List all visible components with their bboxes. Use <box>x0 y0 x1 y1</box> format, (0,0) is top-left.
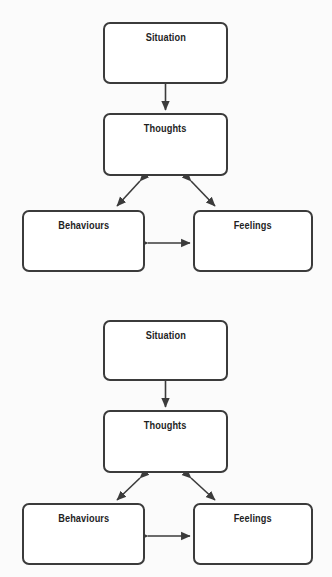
arrow-thoughts-feelings <box>191 478 215 500</box>
arrow-thoughts-feelings <box>191 181 215 206</box>
node-situation[interactable]: Situation <box>103 22 228 84</box>
diagram-page: Situation Thoughts Behaviours Feelings <box>0 0 332 577</box>
arrow-thoughts-behaviours <box>117 478 140 500</box>
node-situation-label: Situation <box>145 33 185 43</box>
node-thoughts-label: Thoughts <box>144 421 187 431</box>
node-situation-label: Situation <box>145 331 185 341</box>
node-feelings[interactable]: Feelings <box>193 503 313 565</box>
node-feelings[interactable]: Feelings <box>193 210 313 272</box>
cbt-diagram-bottom: Situation Thoughts Behaviours Feelings <box>0 290 332 577</box>
node-situation[interactable]: Situation <box>103 320 228 381</box>
node-behaviours[interactable]: Behaviours <box>22 503 145 565</box>
node-thoughts[interactable]: Thoughts <box>103 410 228 473</box>
node-behaviours-label: Behaviours <box>58 514 109 524</box>
arrow-thoughts-behaviours <box>117 181 140 206</box>
node-feelings-label: Feelings <box>234 514 272 524</box>
node-behaviours[interactable]: Behaviours <box>22 210 145 272</box>
node-thoughts-label: Thoughts <box>144 124 187 134</box>
cbt-diagram-top: Situation Thoughts Behaviours Feelings <box>0 0 332 290</box>
node-thoughts[interactable]: Thoughts <box>103 113 228 176</box>
node-feelings-label: Feelings <box>234 221 272 231</box>
node-behaviours-label: Behaviours <box>58 221 109 231</box>
